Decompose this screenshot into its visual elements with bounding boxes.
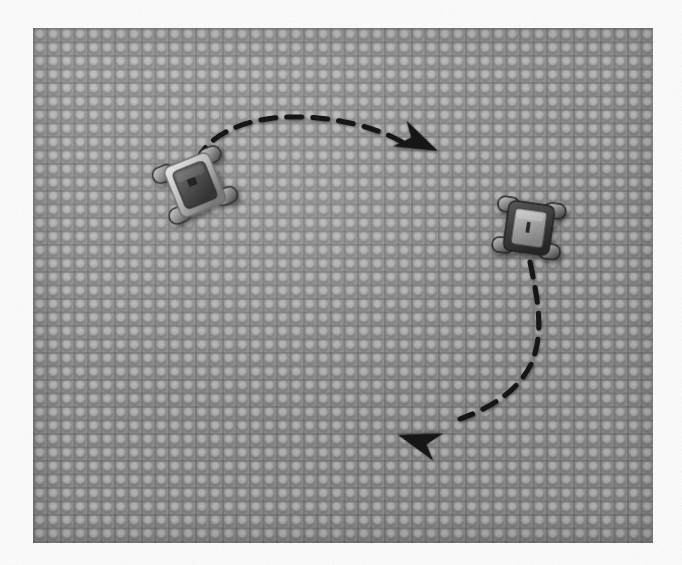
- robot-left-graphic: [150, 144, 239, 227]
- robot-right[interactable]: [477, 176, 581, 280]
- scene-container: [0, 0, 682, 565]
- pegboard-arena: [33, 28, 653, 543]
- robot-right-graphic: [491, 196, 566, 261]
